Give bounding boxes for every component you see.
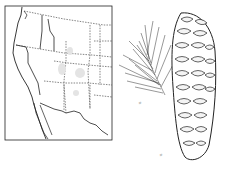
cone-scale-label: ½ [159,154,163,157]
western-us-map [4,5,113,142]
branch-scale-label: ½ [138,102,142,105]
needle-branch [119,21,175,95]
cone-illustration: ½ ½ [115,5,230,165]
pine-cone-and-branch [115,5,230,165]
range-map [4,5,113,142]
